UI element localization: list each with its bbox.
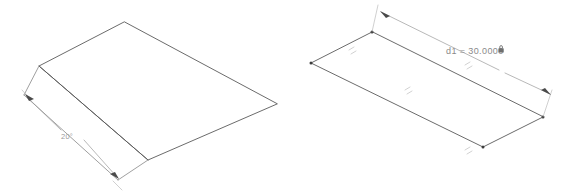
parallel-constraint-top-right[interactable] [465,147,472,154]
right-view-geometry[interactable] [310,31,545,149]
linear-dim-line-left [381,12,499,70]
right-view-constraints[interactable] [349,47,472,154]
parallel-constraint-bottom-left[interactable] [405,87,412,94]
linear-dim-extension-end [543,90,552,117]
linear-dim-arrow-start [380,11,390,18]
right-plate-outline[interactable] [311,32,543,147]
vertex-left[interactable] [310,62,313,65]
vertex-bottom[interactable] [482,146,485,149]
linear-dim-arrow-end [541,88,551,95]
cad-canvas[interactable]: 20° [0,0,569,192]
parallel-constraint-bottom-right[interactable] [465,62,472,69]
parallel-constraint-top-left[interactable] [349,47,356,54]
linear-dimension-label[interactable]: d1 = 30.0000 [446,46,504,56]
right-view-layer[interactable]: d1 = 30.0000 [0,0,569,192]
right-linear-dimension[interactable]: d1 = 30.0000 [372,5,552,117]
linear-dim-extension-start [372,5,378,32]
